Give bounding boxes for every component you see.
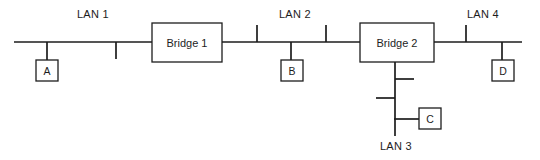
segment-lan2: LAN 2 <box>222 8 360 42</box>
station-a-label: A <box>43 65 50 77</box>
network-diagram: LAN 1 LAN 2 LAN 3 LAN 4 Bridge 1 <box>0 0 540 160</box>
bridge-1[interactable]: Bridge 1 <box>152 23 222 62</box>
lan2-label: LAN 2 <box>279 8 311 20</box>
lan4-label: LAN 4 <box>467 8 499 20</box>
segment-lan3: LAN 3 <box>376 62 414 152</box>
station-c[interactable]: C <box>394 108 441 129</box>
bridge-1-label: Bridge 1 <box>167 37 208 49</box>
segment-lan4: LAN 4 <box>434 8 522 42</box>
station-d-label: D <box>499 65 507 77</box>
station-d[interactable]: D <box>492 42 514 81</box>
segment-lan1: LAN 1 <box>14 8 152 59</box>
lan3-label: LAN 3 <box>380 140 412 152</box>
station-b[interactable]: B <box>281 42 303 81</box>
bridge-2[interactable]: Bridge 2 <box>360 23 434 62</box>
lan1-label: LAN 1 <box>77 8 109 20</box>
station-b-label: B <box>288 65 295 77</box>
station-c-label: C <box>426 113 434 125</box>
bridge-2-label: Bridge 2 <box>377 37 418 49</box>
station-a[interactable]: A <box>36 42 58 81</box>
network-topology-canvas: LAN 1 LAN 2 LAN 3 LAN 4 Bridge 1 <box>0 0 540 160</box>
